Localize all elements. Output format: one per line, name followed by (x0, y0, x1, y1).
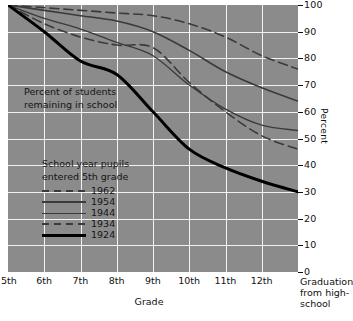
x-axis-graduation-label: Graduationfrom high-school (300, 276, 353, 310)
x-graduation-line: from high- (300, 287, 353, 298)
y-tick-mark-50 (298, 139, 303, 140)
annotation-line: remaining in school (24, 99, 117, 112)
y-tick-mark-40 (298, 165, 303, 166)
series-line-1934 (8, 5, 298, 149)
x-tick-label-12th: 12th (251, 276, 273, 287)
legend-swatch-1944 (42, 208, 86, 219)
legend-title-line: entered 5th grade (42, 171, 129, 184)
legend-entries: 19621954194419341924 (42, 186, 129, 241)
y-tick-mark-0 (298, 272, 303, 273)
y-tick-label-60: 60 (304, 107, 317, 117)
y-tick-mark-100 (298, 5, 303, 6)
x-tick-label-11th: 11th (215, 276, 237, 287)
y-tick-label-20: 20 (304, 214, 317, 224)
legend-title-line: School year pupils (42, 158, 129, 171)
y-tick-label-50: 50 (304, 134, 317, 144)
legend-item-1962[interactable]: 1962 (42, 186, 129, 197)
legend-item-1954[interactable]: 1954 (42, 197, 129, 208)
legend-label-1924: 1924 (91, 229, 115, 242)
y-tick-mark-80 (298, 58, 303, 59)
y-tick-label-80: 80 (304, 53, 317, 63)
y-tick-label-100: 100 (304, 0, 323, 10)
y-tick-label-10: 10 (304, 240, 317, 250)
legend-item-1924[interactable]: 1924 (42, 230, 129, 241)
y-tick-label-70: 70 (304, 80, 317, 90)
legend: School year pupilsentered 5th grade 1962… (42, 158, 129, 241)
x-graduation-line: Graduation (300, 276, 353, 287)
y-axis-title: Percent (319, 108, 329, 144)
y-tick-label-40: 40 (304, 160, 317, 170)
legend-title: School year pupilsentered 5th grade (42, 158, 129, 184)
x-tick-label-5th: 5th (1, 276, 17, 287)
x-tick-label-6th: 6th (36, 276, 52, 287)
y-tick-mark-30 (298, 192, 303, 193)
y-tick-mark-60 (298, 112, 303, 113)
x-axis-title: Grade (0, 296, 298, 307)
y-tick-mark-90 (298, 32, 303, 33)
x-tick-label-10th: 10th (178, 276, 200, 287)
x-tick-label-8th: 8th (109, 276, 125, 287)
y-tick-label-30: 30 (304, 187, 317, 197)
y-tick-mark-70 (298, 85, 303, 86)
legend-item-1934[interactable]: 1934 (42, 219, 129, 230)
y-tick-label-90: 90 (304, 27, 317, 37)
chart-annotation: Percent of studentsremaining in school (24, 86, 117, 112)
legend-swatch-1934 (42, 219, 86, 230)
x-tick-label-9th: 9th (145, 276, 161, 287)
legend-item-1944[interactable]: 1944 (42, 208, 129, 219)
x-tick-label-7th: 7th (73, 276, 89, 287)
y-tick-mark-10 (298, 245, 303, 246)
legend-swatch-1924 (42, 230, 86, 241)
legend-swatch-1954 (42, 197, 86, 208)
legend-swatch-1962 (42, 186, 86, 197)
y-tick-mark-20 (298, 219, 303, 220)
x-graduation-line: school (300, 298, 353, 309)
annotation-line: Percent of students (24, 86, 117, 99)
